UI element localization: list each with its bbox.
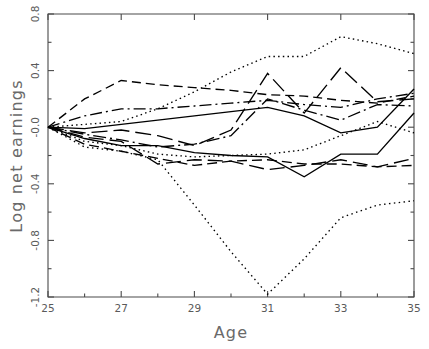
y-tick-label: -0.0 bbox=[29, 117, 41, 138]
x-tick-label: 31 bbox=[261, 302, 274, 314]
series-line-series-4-solid-thin bbox=[48, 89, 414, 133]
x-tick-label: 27 bbox=[115, 302, 128, 314]
series-line-series-11-dotted-deep-dip bbox=[48, 127, 414, 294]
x-axis-tick-labels: 252729313335 bbox=[41, 302, 420, 314]
y-tick-label: 0.8 bbox=[29, 6, 41, 23]
chart-container: 252729313335 0.80.4-0.0-0.4-0.8-1.2 Age … bbox=[0, 0, 429, 349]
x-tick-label: 35 bbox=[407, 302, 420, 314]
series-line-series-1-dotted-high bbox=[48, 37, 414, 128]
y-tick-label: 0.4 bbox=[29, 62, 41, 79]
x-tick-label: 25 bbox=[41, 302, 54, 314]
series-line-series-10-dashed-low bbox=[48, 127, 414, 167]
line-chart: 252729313335 0.80.4-0.0-0.4-0.8-1.2 Age … bbox=[0, 0, 429, 349]
series-line-series-9-longdash-low bbox=[48, 127, 414, 169]
y-tick-label: -0.4 bbox=[29, 173, 41, 194]
y-axis-tick-labels: 0.80.4-0.0-0.4-0.8-1.2 bbox=[29, 6, 41, 308]
x-tick-label: 33 bbox=[334, 302, 347, 314]
x-axis-title: Age bbox=[214, 323, 249, 342]
y-tick-label: -0.8 bbox=[29, 230, 41, 251]
series-line-series-5-longdash bbox=[48, 68, 414, 146]
x-tick-label: 29 bbox=[188, 302, 201, 314]
data-series-group bbox=[48, 37, 414, 295]
series-line-series-3-dashdot bbox=[48, 93, 414, 127]
series-line-series-8-solid-thick bbox=[48, 113, 414, 177]
y-tick-label: -1.2 bbox=[29, 287, 41, 308]
series-line-series-2-dashed-upper bbox=[48, 81, 414, 128]
y-axis-title: Log net earnings bbox=[7, 79, 26, 232]
